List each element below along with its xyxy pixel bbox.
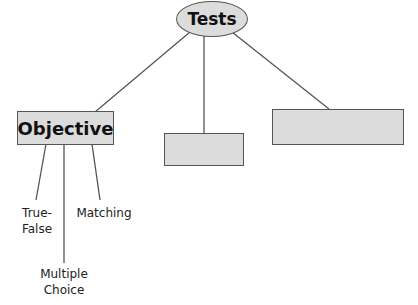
root-label: Tests xyxy=(187,9,236,29)
leaf-multiple-choice: Multiple Choice xyxy=(36,266,92,298)
leaf-true-false: True- False xyxy=(20,205,54,237)
node-blank-middle xyxy=(164,133,244,166)
leaf-text: Choice xyxy=(36,282,92,298)
objective-label: Objective xyxy=(18,118,114,139)
leaf-matching: Matching xyxy=(74,205,134,221)
leaf-text: Matching xyxy=(74,205,134,221)
leaf-text: False xyxy=(20,221,54,237)
node-objective: Objective xyxy=(17,111,114,145)
leaf-text: True- xyxy=(20,205,54,221)
leaf-text: Multiple xyxy=(36,266,92,282)
node-blank-right xyxy=(272,109,404,145)
root-node-tests: Tests xyxy=(176,1,248,37)
